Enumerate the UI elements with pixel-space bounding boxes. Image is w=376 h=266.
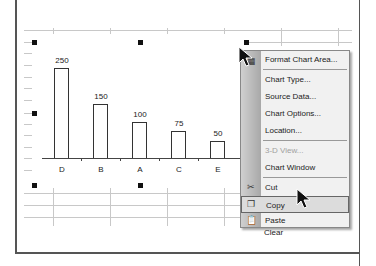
- selection-handle[interactable]: [244, 40, 249, 45]
- row-tick: [24, 170, 32, 171]
- row-tick: [24, 113, 32, 114]
- data-label: 100: [125, 110, 155, 119]
- category-label: E: [208, 165, 228, 174]
- menu-item-chart-window[interactable]: Chart Window: [261, 159, 349, 176]
- menu-item-chart-options[interactable]: Chart Options...: [261, 105, 349, 122]
- menu-item-label: Chart Window: [265, 163, 315, 172]
- gridline: [53, 188, 54, 226]
- gridline: [167, 28, 168, 34]
- gridline: [110, 188, 111, 226]
- mouse-cursor-icon: [238, 46, 254, 68]
- menu-item-label: Format Chart Area...: [265, 55, 337, 64]
- row-tick: [24, 158, 32, 159]
- category-label: C: [169, 165, 189, 174]
- window-right-border: [359, 0, 360, 266]
- menu-item-format-chart-area[interactable]: Format Chart Area...: [261, 51, 349, 68]
- row-tick: [24, 135, 32, 136]
- menu-item-copy[interactable]: Copy: [241, 196, 349, 213]
- bar-c[interactable]: [171, 131, 186, 159]
- gridline: [338, 28, 339, 46]
- data-label: 250: [47, 56, 77, 65]
- row-tick: [24, 147, 32, 148]
- row-tick: [24, 100, 32, 101]
- data-label: 50: [203, 129, 233, 138]
- menu-separator: [263, 69, 347, 70]
- bar-b[interactable]: [93, 104, 108, 159]
- menu-item-label: Chart Type...: [265, 75, 311, 84]
- menu-item-3d-view: 3-D View...: [261, 142, 349, 159]
- menu-item-label: Clear: [264, 228, 283, 237]
- selection-handle[interactable]: [32, 183, 37, 188]
- row-tick: [24, 65, 32, 66]
- category-label: A: [130, 165, 150, 174]
- window-bottom-border: [15, 252, 360, 254]
- gridline: [224, 28, 225, 34]
- menu-item-label: Copy: [266, 201, 285, 210]
- selection-handle[interactable]: [138, 40, 143, 45]
- gridline: [24, 193, 240, 194]
- bar-a[interactable]: [132, 122, 147, 159]
- axis-tick: [81, 158, 82, 161]
- window-left-border: [15, 0, 17, 253]
- axis-tick: [198, 158, 199, 161]
- gridline: [167, 188, 168, 226]
- paste-icon: 📋: [245, 215, 257, 226]
- gridline: [248, 42, 352, 43]
- row-tick: [24, 42, 32, 43]
- menu-item-label: Location...: [265, 126, 302, 135]
- gridline: [53, 28, 54, 34]
- bar-e[interactable]: [210, 141, 225, 159]
- axis-tick: [159, 158, 160, 161]
- menu-item-chart-type[interactable]: Chart Type...: [261, 71, 349, 88]
- gridline: [281, 28, 282, 46]
- category-label: B: [91, 165, 111, 174]
- selection-handle[interactable]: [32, 111, 37, 116]
- axis-tick: [120, 158, 121, 161]
- menu-item-label: 3-D View...: [265, 146, 304, 155]
- row-tick: [24, 53, 32, 54]
- row-tick: [24, 77, 32, 78]
- menu-separator: [263, 177, 347, 178]
- selection-handle[interactable]: [138, 183, 143, 188]
- category-label: D: [52, 165, 72, 174]
- menu-item-location[interactable]: Location...: [261, 122, 349, 139]
- menu-item-label: Paste: [265, 216, 285, 225]
- gridline: [24, 30, 352, 31]
- menu-item-source-data[interactable]: Source Data...: [261, 88, 349, 105]
- menu-item-label: Chart Options...: [265, 109, 321, 118]
- menu-item-clear[interactable]: Clear: [260, 228, 320, 242]
- gridline: [24, 205, 240, 206]
- row-tick: [24, 124, 32, 125]
- menu-item-label: Source Data...: [265, 92, 316, 101]
- row-tick: [24, 88, 32, 89]
- selection-handle[interactable]: [32, 40, 37, 45]
- menu-item-label: Cut: [265, 183, 277, 192]
- mouse-cursor-icon: [296, 188, 312, 210]
- data-label: 150: [86, 92, 116, 101]
- copy-icon: ❐: [245, 199, 257, 210]
- menu-separator: [263, 140, 347, 141]
- data-label: 75: [164, 119, 194, 128]
- gridline: [110, 28, 111, 34]
- scissors-icon: ✂: [245, 182, 257, 193]
- context-menu: Format Chart Area... ▦ Chart Type... Sou…: [240, 50, 350, 228]
- x-axis[interactable]: [42, 158, 240, 159]
- bar-d[interactable]: [54, 68, 69, 159]
- gridline: [24, 217, 240, 218]
- gridline: [224, 188, 225, 226]
